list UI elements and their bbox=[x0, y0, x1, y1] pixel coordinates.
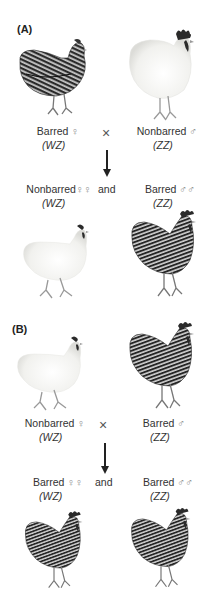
offspring-a-left-phenotype: Nonbarred♀♀ bbox=[26, 183, 92, 195]
white-hen-illustration bbox=[16, 332, 82, 414]
arrow-b-shaft bbox=[104, 443, 105, 467]
female-symbol: ♀ bbox=[71, 125, 79, 137]
offspring-b-right-phenotype: Barred ♂♂ bbox=[142, 476, 194, 488]
male-symbols: ♂♂ bbox=[177, 476, 193, 488]
female-symbol: ♀ bbox=[77, 417, 85, 429]
male-symbol: ♂ bbox=[189, 125, 197, 137]
parent-b-right-genotype: (ZZ) bbox=[150, 431, 170, 443]
offspring-a-right-genotype: (ZZ) bbox=[153, 197, 173, 209]
parent-a-left-genotype: (WZ) bbox=[42, 139, 65, 151]
female-symbols: ♀♀ bbox=[67, 476, 83, 488]
parent-b-left-genotype: (WZ) bbox=[39, 431, 62, 443]
white-hen-illustration bbox=[22, 220, 88, 302]
cross-symbol-b: × bbox=[99, 417, 107, 433]
offspring-b-right-genotype: (ZZ) bbox=[150, 490, 170, 502]
parent-a-right-genotype: (ZZ) bbox=[153, 139, 173, 151]
female-symbols: ♀♀ bbox=[76, 183, 92, 195]
male-symbol: ♂ bbox=[177, 417, 185, 429]
panel-a-label: (A) bbox=[17, 23, 32, 35]
barred-rooster-illustration bbox=[126, 322, 198, 416]
barred-hen-illustration bbox=[16, 38, 86, 118]
arrow-a-shaft bbox=[106, 150, 107, 170]
arrow-down-icon bbox=[101, 466, 109, 474]
conjunction-b: and bbox=[95, 476, 113, 488]
male-symbols: ♂♂ bbox=[179, 183, 195, 195]
barred-hen-offspring-illustration bbox=[22, 510, 86, 596]
offspring-b-left-genotype: (WZ) bbox=[39, 490, 62, 502]
parent-a-left-phenotype: Barred ♀ bbox=[30, 125, 86, 137]
conjunction-a: and bbox=[98, 183, 116, 195]
offspring-a-left-genotype: (WZ) bbox=[42, 197, 65, 209]
offspring-b-left-phenotype: Barred ♀♀ bbox=[32, 476, 84, 488]
barred-rooster-offspring-illustration bbox=[128, 506, 194, 596]
white-rooster-illustration bbox=[124, 24, 196, 124]
barred-rooster-illustration bbox=[128, 210, 200, 304]
cross-symbol-a: × bbox=[102, 125, 110, 141]
offspring-a-right-phenotype: Barred ♂♂ bbox=[144, 183, 196, 195]
parent-a-right-phenotype: Nonbarred ♂ bbox=[134, 125, 200, 137]
parent-b-left-phenotype: Nonbarred ♀ bbox=[22, 417, 88, 429]
arrow-down-icon bbox=[103, 169, 111, 177]
parent-b-right-phenotype: Barred ♂ bbox=[140, 417, 188, 429]
